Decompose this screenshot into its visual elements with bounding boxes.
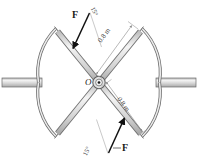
dimension-line-upper	[93, 22, 139, 79]
mechanics-figure	[0, 0, 198, 168]
center-hub	[93, 76, 105, 88]
angle-leader-lower	[97, 120, 109, 154]
arc-bottom-right	[140, 83, 161, 139]
right-shaft	[156, 78, 196, 87]
spoke-southeast	[99, 83, 141, 134]
spoke-northeast	[99, 32, 141, 83]
arc-top-right	[140, 27, 161, 83]
dimension-line-lower	[102, 79, 148, 136]
left-shaft	[2, 78, 42, 87]
arc-bottom-left	[38, 83, 59, 139]
spoke-northwest	[58, 32, 100, 83]
force-arrow-upper	[73, 13, 90, 49]
angle-leader-upper	[90, 13, 102, 48]
arc-top-left	[38, 27, 59, 83]
spoke-southwest	[58, 83, 100, 134]
